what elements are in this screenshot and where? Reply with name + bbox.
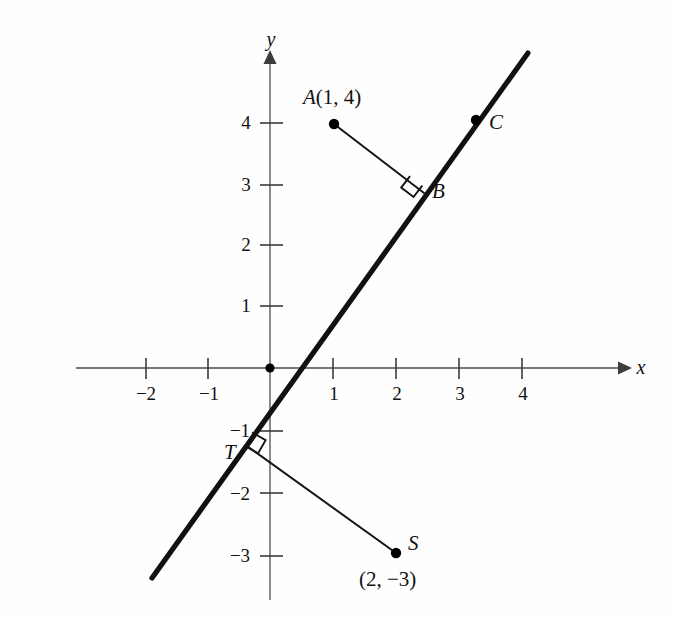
right-angle-marker-at-b bbox=[401, 176, 422, 197]
point-s-dot bbox=[391, 548, 401, 558]
point-a-letter: A bbox=[301, 85, 316, 109]
point-t-label: T bbox=[224, 440, 237, 464]
tick-label-x-1: 1 bbox=[329, 383, 339, 404]
tick-label-y-3: 3 bbox=[241, 174, 251, 195]
tick-label-x-2: 2 bbox=[392, 383, 402, 404]
axes-group bbox=[76, 50, 632, 600]
y-axis-label: y bbox=[265, 28, 276, 51]
point-s-label: S bbox=[408, 531, 419, 555]
point-b-label: B bbox=[432, 179, 445, 203]
x-axis-label: x bbox=[636, 356, 646, 378]
point-a-dot bbox=[329, 119, 339, 129]
tick-label-y--3: −3 bbox=[230, 545, 250, 566]
segment-a-to-b bbox=[334, 124, 424, 193]
point-a-coordinates: (1, 4) bbox=[316, 85, 362, 109]
point-a-label: A(1, 4) bbox=[301, 85, 361, 109]
tick-labels-group: −2 −1 1 2 3 4 1 2 3 4 −1 −2 −3 bbox=[136, 112, 528, 566]
point-s-coordinates: (2, −3) bbox=[359, 567, 416, 591]
tick-label-y--2: −2 bbox=[230, 483, 250, 504]
origin-point-dot bbox=[265, 363, 274, 372]
tick-label-x--2: −2 bbox=[136, 383, 156, 404]
thick-line-L bbox=[152, 53, 528, 578]
tick-label-y-2: 2 bbox=[241, 234, 251, 255]
tick-marks-group bbox=[146, 123, 522, 556]
y-axis-arrow-icon bbox=[264, 50, 277, 64]
point-c-label: C bbox=[489, 110, 504, 134]
tick-label-y--1: −1 bbox=[230, 420, 250, 441]
tick-label-x-4: 4 bbox=[518, 383, 528, 404]
x-axis-arrow-icon bbox=[618, 362, 632, 375]
tick-label-x-3: 3 bbox=[455, 383, 465, 404]
coordinate-plane-svg: −2 −1 1 2 3 4 1 2 3 4 −1 −2 −3 x y bbox=[0, 0, 674, 619]
coordinate-geometry-figure: −2 −1 1 2 3 4 1 2 3 4 −1 −2 −3 x y bbox=[0, 0, 674, 619]
point-c-dot bbox=[471, 115, 481, 125]
tick-label-x--1: −1 bbox=[199, 383, 219, 404]
tick-label-y-1: 1 bbox=[241, 295, 251, 316]
tick-label-y-4: 4 bbox=[241, 112, 251, 133]
